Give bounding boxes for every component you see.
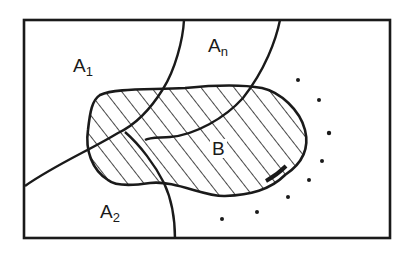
label-b: B bbox=[210, 139, 227, 158]
diagram-canvas bbox=[0, 0, 411, 259]
label-an: An bbox=[208, 36, 228, 58]
label-a1: A1 bbox=[73, 56, 93, 78]
set-b-region bbox=[80, 80, 320, 210]
partition-diagram: A1 An A2 B bbox=[0, 0, 411, 259]
label-a2: A2 bbox=[100, 202, 120, 224]
